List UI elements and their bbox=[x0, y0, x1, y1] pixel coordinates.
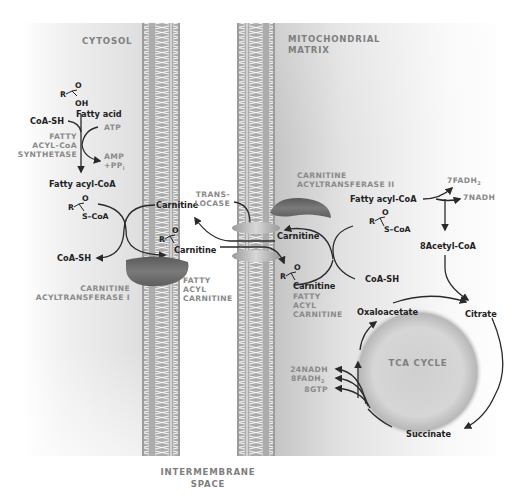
fatty-acyl-coa-cytosol: Fatty acyl-CoA bbox=[49, 179, 116, 189]
acetyl-coa-label: 8Acetyl-CoA bbox=[420, 241, 477, 251]
fadh2-beta-label: 7FADH2 bbox=[447, 176, 481, 186]
cat1-product-line1: FATTY bbox=[183, 276, 211, 285]
svg-text:O: O bbox=[75, 81, 82, 90]
cytosol-fade bbox=[22, 23, 144, 456]
svg-text:R: R bbox=[369, 217, 375, 226]
svg-text:S–CoA: S–CoA bbox=[82, 212, 109, 221]
fatty-acid-transport-diagram: CYTOSOL MITOCHONDRIAL MATRIX INTERMEMBRA… bbox=[0, 0, 525, 497]
cat2-enzyme-line2: ACYLTRANSFERASE II bbox=[297, 180, 395, 189]
matrix-label-line2: MATRIX bbox=[288, 45, 330, 55]
inner-membrane bbox=[237, 23, 275, 456]
svg-text:R: R bbox=[68, 203, 74, 212]
svg-text:OH: OH bbox=[75, 99, 88, 108]
svg-text:O: O bbox=[172, 226, 179, 235]
enzyme-synthetase-line2: ACYL-CoA bbox=[32, 141, 77, 150]
tca-gtp-label: 8GTP bbox=[304, 385, 328, 394]
cat1-product-line3: CARNITINE bbox=[183, 294, 233, 303]
translocase-label-line1: TRANS- bbox=[196, 190, 230, 199]
tca-nadh-label: 24NADH bbox=[290, 365, 328, 374]
nadh-beta-label: 7NADH bbox=[463, 193, 495, 202]
fatty-acyl-coa-matrix: Fatty acyl-CoA bbox=[350, 194, 417, 204]
svg-text:O: O bbox=[382, 208, 389, 217]
svg-text:R: R bbox=[159, 235, 165, 244]
coa-sh-matrix-in: CoA-SH bbox=[365, 274, 399, 284]
translocase-top bbox=[232, 222, 280, 234]
cat1-product-line2: ACYL bbox=[183, 285, 206, 294]
tca-fadh2-label: 8FADH2 bbox=[291, 374, 325, 384]
oxaloacetate-label: Oxaloacetate bbox=[357, 307, 418, 317]
carnitine-cytosol-in: Carnitine bbox=[156, 200, 199, 210]
svg-text:Carnitine: Carnitine bbox=[174, 245, 217, 255]
cytosol-label: CYTOSOL bbox=[82, 36, 132, 46]
svg-text:S–CoA: S–CoA bbox=[384, 225, 411, 234]
svg-text:Carnitine: Carnitine bbox=[293, 281, 336, 291]
cat2-product-line2: ACYL bbox=[293, 301, 316, 310]
intermembrane-label-line2: SPACE bbox=[191, 479, 226, 489]
fatty-acid-label: Fatty acid bbox=[76, 109, 122, 119]
svg-text:O: O bbox=[82, 194, 89, 203]
amp-label: AMP bbox=[104, 152, 124, 161]
translocase-bottom bbox=[232, 250, 280, 262]
citrate-label: Citrate bbox=[465, 309, 497, 319]
svg-text:O: O bbox=[294, 263, 301, 272]
tca-cycle-circle bbox=[354, 308, 482, 436]
enzyme-synthetase-line1: FATTY bbox=[49, 132, 77, 141]
svg-text:R: R bbox=[280, 272, 286, 281]
translocase-label-line2: LOCASE bbox=[194, 199, 230, 208]
tca-cycle-title: TCA CYCLE bbox=[389, 358, 448, 368]
cat1-enzyme-line2: ACYLTRANSFERASE I bbox=[36, 293, 130, 302]
matrix-label-line1: MITOCHONDRIAL bbox=[288, 34, 380, 44]
cat2-product-line3: CARNITINE bbox=[293, 310, 343, 319]
intermembrane-label-line1: INTERMEMBRANE bbox=[161, 467, 256, 477]
enzyme-synthetase-line3: SYNTHETASE bbox=[18, 150, 77, 159]
ppi-label: +PPi bbox=[104, 161, 125, 171]
atp-label: ATP bbox=[104, 123, 121, 132]
coa-sh-input: CoA-SH bbox=[30, 116, 64, 126]
svg-text:R: R bbox=[60, 90, 66, 99]
coa-sh-cytosol-out: CoA-SH bbox=[57, 253, 91, 263]
succinate-label: Succinate bbox=[406, 429, 452, 439]
cat2-product-line1: FATTY bbox=[293, 292, 321, 301]
cat2-enzyme-line1: CARNITINE bbox=[297, 171, 347, 180]
carnitine-matrix-out: Carnitine bbox=[277, 231, 320, 241]
cat1-enzyme-line1: CARNITINE bbox=[80, 284, 130, 293]
